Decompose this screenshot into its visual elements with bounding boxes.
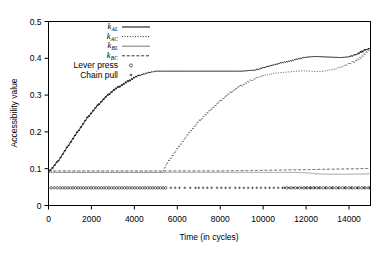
x-tick-label: 6000 bbox=[168, 214, 187, 224]
x-tick-label: 10000 bbox=[251, 214, 275, 224]
plot-frame bbox=[49, 22, 371, 206]
y-tick-label: 0.1 bbox=[30, 164, 42, 174]
legend-subscript: AL bbox=[110, 26, 118, 32]
y-axis: 00.10.20.30.40.5 bbox=[30, 17, 49, 211]
legend-label-chain-pull: Chain pull bbox=[80, 70, 118, 80]
y-tick-label: 0.4 bbox=[30, 53, 42, 63]
y-tick-label: 0.3 bbox=[30, 90, 42, 100]
x-tick-label: 12000 bbox=[294, 214, 318, 224]
x-tick-label: 4000 bbox=[125, 214, 144, 224]
y-axis-title: Accessibility value bbox=[9, 78, 19, 147]
legend-label-lever-press: Lever press bbox=[74, 60, 118, 70]
x-axis: 02000400060008000100001200014000 bbox=[46, 206, 361, 224]
x-axis-title: Time (in cycles) bbox=[179, 232, 238, 242]
chart-figure: 00.10.20.30.40.5 02000400060008000100001… bbox=[0, 0, 386, 256]
x-tick-label: 0 bbox=[46, 214, 51, 224]
x-tick-label: 2000 bbox=[82, 214, 101, 224]
x-tick-label: 8000 bbox=[211, 214, 230, 224]
y-tick-label: 0.2 bbox=[30, 127, 42, 137]
x-tick-label: 14000 bbox=[337, 214, 361, 224]
y-tick-label: 0 bbox=[37, 201, 42, 211]
y-tick-label: 0.5 bbox=[30, 17, 42, 27]
legend-subscript: BL bbox=[111, 45, 118, 51]
chart-svg: 00.10.20.30.40.5 02000400060008000100001… bbox=[0, 0, 386, 256]
